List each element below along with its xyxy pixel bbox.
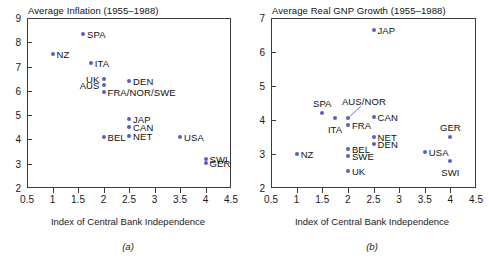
data-point <box>178 135 182 139</box>
data-point-label: UK <box>352 166 365 177</box>
x-tick-label: 3 <box>152 194 158 205</box>
panel-a-plot-area: 234567890.511.522.533.544.5SPANZITAUKAUS… <box>27 18 231 188</box>
data-point <box>127 117 131 121</box>
y-tick-label: 8 <box>15 37 21 48</box>
data-point <box>372 142 376 146</box>
x-tick <box>155 188 156 193</box>
data-point-label: NET <box>133 130 152 141</box>
x-tick-label: 3 <box>396 194 402 205</box>
panel-b-title: Average Real GNP Growth (1955–1988) <box>272 5 446 16</box>
y-tick-label: 5 <box>15 110 21 121</box>
panel-b-x-axis-title: Index of Central Bank Independence <box>250 216 489 227</box>
data-point <box>346 123 350 127</box>
x-tick-label: 2 <box>101 194 107 205</box>
x-tick-label: 1.5 <box>71 194 85 205</box>
data-point <box>102 83 106 87</box>
x-tick <box>206 188 207 193</box>
y-tick <box>271 52 276 53</box>
y-tick <box>271 120 276 121</box>
x-tick <box>322 188 323 193</box>
data-point-label: ITA <box>95 57 109 68</box>
y-tick <box>27 115 32 116</box>
data-point <box>102 90 106 94</box>
data-point-label: FRA <box>352 120 371 131</box>
y-tick <box>27 67 32 68</box>
data-point-label: DEN <box>378 138 398 149</box>
x-tick <box>450 188 451 193</box>
x-tick-label: 1 <box>294 194 300 205</box>
data-point <box>320 111 324 115</box>
y-tick <box>27 139 32 140</box>
data-point-label: BEL <box>108 132 126 143</box>
y-tick-label: 2 <box>15 183 21 194</box>
data-point <box>102 77 106 81</box>
y-tick-label: 2 <box>259 183 265 194</box>
y-tick-label: 4 <box>15 134 21 145</box>
x-tick-label: 0.5 <box>264 194 278 205</box>
x-tick <box>297 188 298 193</box>
y-tick-label: 3 <box>259 149 265 160</box>
data-point <box>89 61 93 65</box>
y-tick-label: 7 <box>15 61 21 72</box>
x-tick <box>104 188 105 193</box>
y-tick <box>271 86 276 87</box>
panel-b: Average Real GNP Growth (1955–1988) 2345… <box>245 0 489 262</box>
data-point-label: NZ <box>301 149 314 160</box>
y-tick-label: 5 <box>259 81 265 92</box>
data-point <box>346 169 350 173</box>
panel-a-x-axis-title: Index of Central Bank Independence <box>6 216 250 227</box>
y-tick <box>27 91 32 92</box>
data-point <box>346 154 350 158</box>
y-tick-label: 3 <box>15 158 21 169</box>
scatter-figure: Average Inflation (1955–1988) 234567890.… <box>0 0 489 262</box>
x-tick <box>374 188 375 193</box>
data-point-label: NZ <box>57 49 70 60</box>
x-tick <box>180 188 181 193</box>
data-point-label: ITA <box>328 124 342 135</box>
data-point-label: SPA <box>313 98 332 109</box>
data-point-label: SPA <box>87 28 106 39</box>
data-point <box>448 159 452 163</box>
x-tick-label: 4.5 <box>469 194 483 205</box>
x-tick-label: 4 <box>203 194 209 205</box>
data-point-label: AUS <box>80 79 100 90</box>
data-point-label: GER <box>440 122 461 133</box>
data-point-label: GER <box>210 157 231 168</box>
data-point <box>372 115 376 119</box>
x-tick-label: 2 <box>345 194 351 205</box>
data-point <box>127 134 131 138</box>
data-point <box>127 125 131 129</box>
data-point-label: AUS/NOR <box>342 96 386 107</box>
x-tick-label: 1.5 <box>315 194 329 205</box>
panel-a: Average Inflation (1955–1988) 234567890.… <box>0 0 244 262</box>
data-point-label: CAN <box>378 111 398 122</box>
data-point <box>346 116 350 120</box>
panel-a-caption: (a) <box>6 241 250 252</box>
data-point-label: USA <box>429 147 449 158</box>
x-tick-label: 4.5 <box>224 194 238 205</box>
data-point <box>333 116 337 120</box>
data-point-label: USA <box>184 132 204 143</box>
data-point <box>448 135 452 139</box>
x-tick-label: 2.5 <box>367 194 381 205</box>
y-tick-label: 9 <box>15 13 21 24</box>
data-point <box>81 32 85 36</box>
panel-b-plot-area: 2345670.511.522.533.544.5JAPSPAITAAUS/NO… <box>271 18 476 188</box>
x-tick <box>425 188 426 193</box>
data-point <box>51 52 55 56</box>
data-point <box>102 135 106 139</box>
data-point <box>295 152 299 156</box>
data-point-label: JAP <box>378 24 396 35</box>
data-point-label: FRA/NOR/SWE <box>108 87 176 98</box>
x-tick-label: 3.5 <box>173 194 187 205</box>
panel-a-title: Average Inflation (1955–1988) <box>28 5 159 16</box>
data-point <box>372 28 376 32</box>
x-tick-label: 1 <box>50 194 56 205</box>
y-tick <box>27 42 32 43</box>
data-point <box>346 147 350 151</box>
x-tick <box>129 188 130 193</box>
x-tick <box>53 188 54 193</box>
x-tick-label: 0.5 <box>20 194 34 205</box>
y-tick <box>271 154 276 155</box>
y-tick-label: 6 <box>259 47 265 58</box>
